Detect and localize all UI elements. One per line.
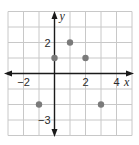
data-point <box>36 101 42 107</box>
data-point <box>98 101 104 107</box>
x-tick-label: −2 <box>17 76 30 88</box>
x-tick-label: 4 <box>113 76 119 88</box>
data-point <box>67 39 73 45</box>
x-tick-label: 2 <box>82 76 88 88</box>
y-axis-label: y <box>59 9 66 23</box>
y-axis-up-arrow-icon <box>52 11 58 19</box>
coordinate-plane: −2242−3 x y <box>0 0 139 145</box>
data-point <box>51 55 57 61</box>
tick-labels: −2242−3 <box>17 37 119 127</box>
y-tick-label: −3 <box>38 114 51 126</box>
y-tick-label: 2 <box>44 37 50 49</box>
data-point <box>82 55 88 61</box>
x-axis-label: x <box>123 75 130 89</box>
